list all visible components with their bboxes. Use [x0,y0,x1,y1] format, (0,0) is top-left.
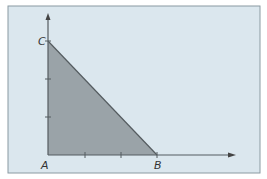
label-b: B [154,159,162,172]
label-a: A [40,159,49,172]
label-c: C [38,35,46,48]
triangle-diagram: C A B [0,0,267,179]
